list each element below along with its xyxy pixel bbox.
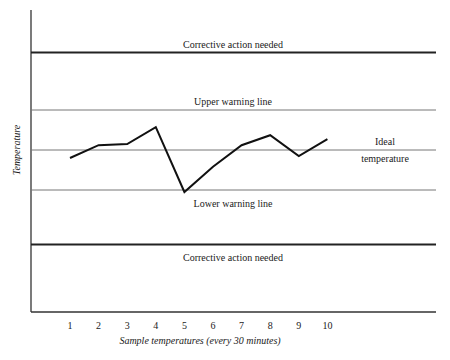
- ideal-label-line1: Ideal: [375, 136, 395, 147]
- x-tick-label: 6: [211, 320, 216, 331]
- x-tick-label: 4: [153, 320, 158, 331]
- x-tick-label: 7: [239, 320, 244, 331]
- ideal-label-line2: temperature: [361, 153, 409, 164]
- x-tick-label: 3: [125, 320, 130, 331]
- temperature-series-line: [70, 127, 327, 192]
- upper-warning-label: Upper warning line: [194, 96, 272, 107]
- x-tick-label: 1: [68, 320, 73, 331]
- lower-warning-label: Lower warning line: [194, 198, 273, 209]
- x-tick-label: 2: [96, 320, 101, 331]
- corrective-upper-label: Corrective action needed: [183, 39, 283, 50]
- x-tick-label: 10: [322, 320, 332, 331]
- x-tick-label: 5: [182, 320, 187, 331]
- x-tick-label: 9: [296, 320, 301, 331]
- x-axis-title: Sample temperatures (every 30 minutes): [119, 335, 280, 346]
- chart-canvas: [0, 0, 450, 360]
- x-tick-label: 8: [268, 320, 273, 331]
- y-axis-title: Temperature: [11, 125, 22, 175]
- corrective-lower-label: Corrective action needed: [183, 252, 283, 263]
